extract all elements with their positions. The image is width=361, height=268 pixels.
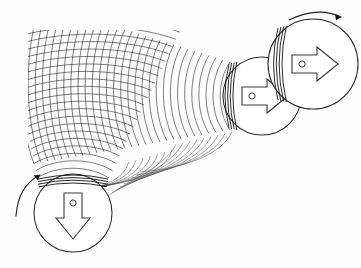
figure-canvas — [0, 0, 361, 268]
wave-interference-figure: Hand-drawn style physics diagram: two ci… — [0, 0, 361, 268]
source-right-middle-arrow-dot — [249, 93, 255, 99]
source-bottom-left-arrow-dot — [70, 200, 76, 206]
source-bottom-left[interactable] — [34, 174, 112, 252]
source-right-upper[interactable] — [268, 19, 358, 109]
source-right-upper-arrow-dot — [299, 61, 305, 67]
